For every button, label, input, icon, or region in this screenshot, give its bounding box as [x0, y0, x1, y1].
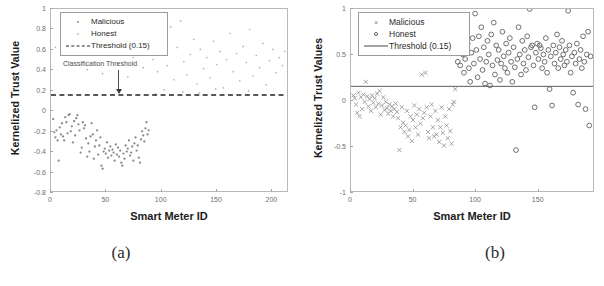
y-tick-label: 0.2 [26, 86, 46, 93]
x-tick-label: 0 [348, 196, 352, 203]
legend-label-threshold: Threshold (0.15) [91, 40, 150, 52]
x-tick-mark [271, 189, 272, 192]
y-tick-mark [350, 146, 353, 147]
y-tick-label: 1 [326, 5, 346, 12]
classification-threshold-annotation: Classification Threshold [63, 60, 137, 67]
y-tick-label: -0.5 [326, 143, 346, 150]
y-tick-label: 0.6 [26, 45, 46, 52]
honest-marker-icon [65, 28, 91, 40]
x-tick-label: 150 [532, 196, 544, 203]
x-axis-title-b: Smart Meter ID [350, 210, 594, 222]
legend-b: × Malicious Honest Threshold (0.15) [358, 12, 470, 56]
x-tick-label: 50 [101, 196, 109, 203]
y-tick-mark [50, 192, 53, 193]
y-tick-mark [50, 172, 53, 173]
legend-a: Malicious Honest Threshold (0.15) [60, 12, 168, 56]
y-tick-mark [350, 54, 353, 55]
x-tick-label: 150 [210, 196, 222, 203]
y-tick-mark [50, 49, 53, 50]
solid-line-icon [363, 40, 389, 52]
legend-item-malicious-b: × Malicious [363, 16, 464, 28]
x-tick-mark [475, 189, 476, 192]
series-honest [454, 9, 593, 152]
y-tick-label: -0.8 [26, 189, 46, 196]
subcaption-a: (a) [0, 243, 272, 263]
circle-marker-icon [363, 28, 389, 40]
y-tick-mark [50, 131, 53, 132]
annotation-arrow-icon [118, 70, 119, 90]
malicious-marker-icon [65, 16, 91, 28]
y-tick-label: 1 [26, 5, 46, 12]
y-tick-label: -1 [326, 189, 346, 196]
legend-label-malicious: Malicious [389, 16, 424, 28]
legend-label-threshold: Threshold (0.15) [389, 40, 451, 52]
x-tick-mark [538, 189, 539, 192]
series-malicious [52, 113, 150, 170]
panel-a: Kernelized Trust Value Smart Meter ID Ma… [0, 0, 302, 286]
y-tick-label: -0.4 [26, 148, 46, 155]
y-tick-label: -0.6 [26, 168, 46, 175]
legend-item-threshold-a: Threshold (0.15) [65, 40, 162, 52]
y-axis-title-b: Kernelized Trust Values [312, 30, 324, 166]
y-tick-label: 0.8 [26, 25, 46, 32]
y-tick-label: -0.2 [26, 127, 46, 134]
x-tick-mark [50, 189, 51, 192]
y-tick-mark [350, 192, 353, 193]
x-tick-mark [105, 189, 106, 192]
cross-marker-icon: × [363, 16, 389, 28]
x-tick-label: 100 [155, 196, 167, 203]
x-tick-label: 50 [409, 196, 417, 203]
legend-item-threshold-b: Threshold (0.15) [363, 40, 464, 52]
y-tick-label: 0.5 [326, 51, 346, 58]
y-tick-mark [50, 110, 53, 111]
y-tick-label: 0 [26, 107, 46, 114]
x-tick-mark [413, 189, 414, 192]
legend-label-honest: Honest [91, 28, 116, 40]
x-tick-label: 100 [469, 196, 481, 203]
y-tick-mark [50, 8, 53, 9]
y-tick-mark [50, 151, 53, 152]
y-tick-mark [350, 100, 353, 101]
y-tick-mark [50, 28, 53, 29]
legend-label-honest: Honest [389, 28, 416, 40]
legend-label-malicious: Malicious [91, 16, 124, 28]
y-tick-mark [350, 8, 353, 9]
panel-b: Kernelized Trust Values Smart Meter ID ×… [302, 0, 604, 286]
subcaption-b: (b) [344, 243, 604, 263]
legend-item-malicious-a: Malicious [65, 16, 162, 28]
legend-item-honest-b: Honest [363, 28, 464, 40]
dashed-line-icon [65, 40, 91, 52]
x-tick-mark [216, 189, 217, 192]
y-axis-title-a: Kernelized Trust Value [9, 33, 21, 163]
x-tick-mark [350, 189, 351, 192]
x-tick-mark [161, 189, 162, 192]
x-axis-title-a: Smart Meter ID [50, 210, 288, 222]
y-tick-label: 0.4 [26, 66, 46, 73]
y-tick-mark [50, 69, 53, 70]
figure-container: Kernelized Trust Value Smart Meter ID Ma… [0, 0, 604, 286]
y-tick-mark [50, 90, 53, 91]
y-tick-label: 0 [326, 97, 346, 104]
x-tick-label: 200 [266, 196, 278, 203]
x-tick-label: 0 [48, 196, 52, 203]
series-malicious [351, 71, 457, 153]
legend-item-honest-a: Honest [65, 28, 162, 40]
